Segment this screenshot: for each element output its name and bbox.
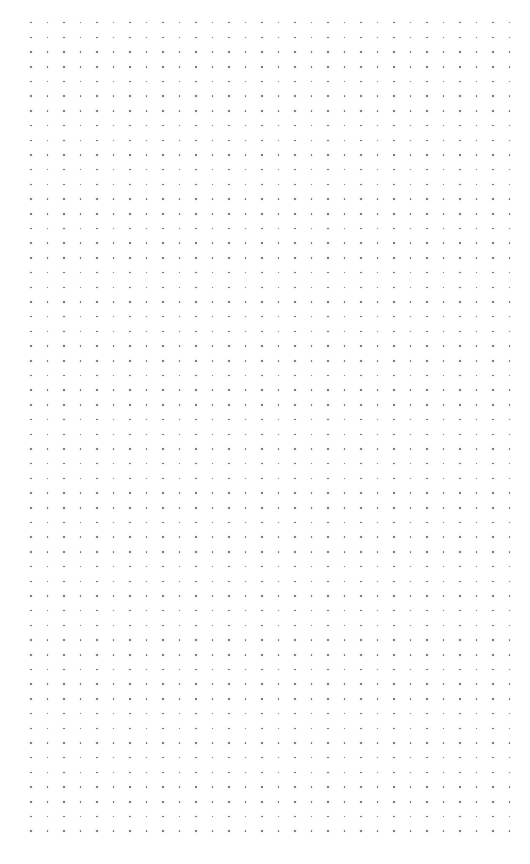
grid-dot bbox=[492, 595, 494, 597]
grid-dot bbox=[162, 728, 164, 730]
grid-dot bbox=[195, 713, 197, 715]
grid-dot bbox=[212, 22, 214, 24]
grid-dot bbox=[426, 140, 428, 142]
grid-dot bbox=[195, 110, 197, 112]
grid-dot bbox=[360, 140, 362, 142]
grid-dot bbox=[80, 22, 82, 24]
grid-dot bbox=[492, 272, 494, 274]
grid-dot bbox=[261, 154, 263, 156]
grid-dot bbox=[278, 581, 280, 583]
grid-dot bbox=[426, 698, 428, 700]
grid-dot bbox=[410, 801, 412, 803]
grid-dot bbox=[509, 360, 511, 362]
grid-dot bbox=[377, 404, 379, 406]
grid-dot bbox=[509, 213, 511, 215]
grid-dot bbox=[47, 595, 49, 597]
grid-dot bbox=[146, 595, 148, 597]
grid-dot bbox=[393, 110, 395, 112]
grid-dot bbox=[80, 51, 82, 53]
grid-dot bbox=[245, 581, 247, 583]
grid-dot bbox=[459, 345, 461, 347]
grid-dot bbox=[393, 51, 395, 53]
grid-dot bbox=[63, 551, 65, 553]
grid-dot bbox=[96, 110, 98, 112]
grid-dot bbox=[377, 125, 379, 127]
grid-dot bbox=[459, 683, 461, 685]
grid-dot bbox=[63, 37, 65, 39]
grid-dot bbox=[80, 639, 82, 641]
grid-dot bbox=[278, 772, 280, 774]
grid-dot bbox=[113, 610, 115, 612]
grid-dot bbox=[195, 22, 197, 24]
grid-dot bbox=[476, 213, 478, 215]
grid-dot bbox=[360, 125, 362, 127]
grid-dot bbox=[146, 816, 148, 818]
grid-dot bbox=[63, 301, 65, 303]
grid-dot bbox=[377, 434, 379, 436]
grid-dot bbox=[278, 728, 280, 730]
grid-dot bbox=[212, 154, 214, 156]
grid-dot bbox=[360, 110, 362, 112]
grid-dot bbox=[30, 786, 32, 788]
grid-dot bbox=[212, 713, 214, 715]
grid-dot bbox=[476, 169, 478, 171]
grid-dot bbox=[476, 198, 478, 200]
grid-dot bbox=[294, 375, 296, 377]
grid-dot bbox=[179, 110, 181, 112]
grid-dot bbox=[278, 331, 280, 333]
grid-dot bbox=[377, 742, 379, 744]
grid-dot bbox=[212, 272, 214, 274]
grid-dot bbox=[162, 742, 164, 744]
grid-dot bbox=[410, 448, 412, 450]
grid-dot bbox=[212, 786, 214, 788]
grid-dot bbox=[443, 95, 445, 97]
grid-dot bbox=[509, 125, 511, 127]
grid-dot bbox=[245, 22, 247, 24]
grid-dot bbox=[47, 66, 49, 68]
grid-dot bbox=[96, 51, 98, 53]
grid-dot bbox=[327, 639, 329, 641]
grid-dot bbox=[459, 140, 461, 142]
grid-dot bbox=[393, 434, 395, 436]
grid-dot bbox=[344, 742, 346, 744]
grid-dot bbox=[63, 331, 65, 333]
grid-dot bbox=[360, 522, 362, 524]
grid-dot bbox=[63, 257, 65, 259]
grid-dot bbox=[509, 595, 511, 597]
grid-dot bbox=[146, 522, 148, 524]
grid-dot bbox=[146, 66, 148, 68]
grid-dot bbox=[30, 551, 32, 553]
grid-dot bbox=[393, 448, 395, 450]
grid-dot bbox=[96, 463, 98, 465]
grid-dot bbox=[459, 757, 461, 759]
grid-dot bbox=[261, 742, 263, 744]
grid-dot bbox=[47, 492, 49, 494]
grid-dot bbox=[47, 683, 49, 685]
grid-dot bbox=[360, 51, 362, 53]
grid-dot bbox=[228, 816, 230, 818]
grid-dot bbox=[96, 478, 98, 480]
grid-dot bbox=[344, 786, 346, 788]
grid-dot bbox=[426, 95, 428, 97]
grid-dot bbox=[311, 22, 313, 24]
grid-dot bbox=[294, 37, 296, 39]
grid-dot bbox=[80, 81, 82, 83]
grid-dot bbox=[195, 478, 197, 480]
grid-dot bbox=[162, 169, 164, 171]
grid-dot bbox=[261, 37, 263, 39]
grid-dot bbox=[228, 419, 230, 421]
grid-dot bbox=[410, 316, 412, 318]
grid-dot bbox=[212, 625, 214, 627]
grid-dot bbox=[344, 110, 346, 112]
grid-dot bbox=[377, 22, 379, 24]
grid-dot bbox=[129, 448, 131, 450]
grid-dot bbox=[146, 213, 148, 215]
grid-dot bbox=[195, 683, 197, 685]
grid-dot bbox=[261, 830, 263, 832]
grid-dot bbox=[377, 566, 379, 568]
grid-dot bbox=[179, 683, 181, 685]
grid-dot bbox=[443, 242, 445, 244]
grid-dot bbox=[245, 551, 247, 553]
grid-dot bbox=[245, 492, 247, 494]
grid-dot bbox=[129, 683, 131, 685]
